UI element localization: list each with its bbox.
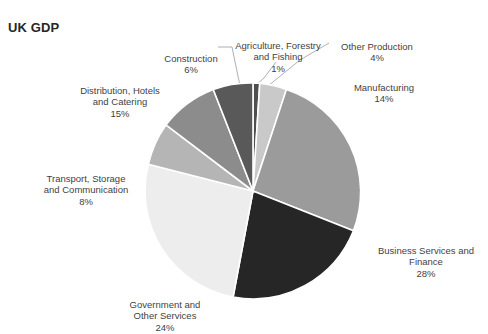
pie-label-other-production-percent: 4% [327,52,427,64]
pie-label-government: Government and Other Services 24% [110,287,220,334]
pie-label-distribution-percent: 15% [58,108,182,120]
pie-label-government-text: Government and Other Services [130,299,201,322]
pie-label-agriculture-percent: 1% [226,63,330,75]
pie-label-manufacturing-percent: 14% [336,93,432,105]
pie-chart-figure: 8% UK GDP [0,0,488,334]
pie-label-construction-text: Construction [164,53,217,64]
pie-label-manufacturing-text: Manufacturing [354,82,414,93]
pie-label-agriculture: Agriculture, Forestry and Fishing 1% [226,28,330,86]
pie-label-transport: Transport, Storage and Communication 8% [26,161,146,219]
pie-label-distribution-text: Distribution, Hotels and Catering [80,85,160,108]
pie-label-government-percent: 24% [110,322,220,334]
pie-label-agriculture-text: Agriculture, Forestry and Fishing [235,40,321,63]
clipped-top-artifact-text: 8% [168,0,208,2]
pie-label-business-services-text: Business Services and Finance [378,245,474,268]
pie-label-construction: Construction 6% [148,41,234,87]
pie-label-other-production-text: Other Production [341,41,413,52]
pie-label-transport-percent: 8% [26,196,146,208]
pie-label-construction-percent: 6% [148,64,234,76]
pie-label-business-services-percent: 28% [370,268,482,280]
chart-title: UK GDP [8,20,59,35]
pie-label-other-production: Other Production 4% [327,29,427,75]
pie-label-manufacturing: Manufacturing 14% [336,70,432,116]
pie-label-transport-text: Transport, Storage and Communication [44,173,129,196]
pie-label-business-services: Business Services and Finance 28% [370,233,482,291]
